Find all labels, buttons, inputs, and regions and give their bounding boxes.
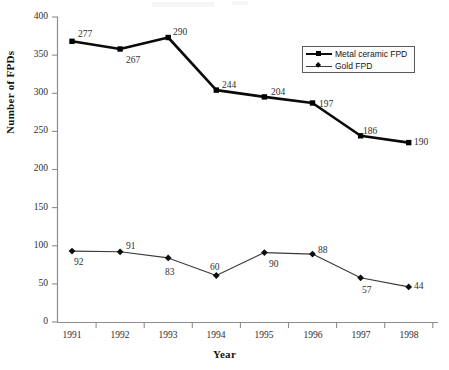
- data-label-metal-ceramic-1997: 186: [363, 126, 377, 136]
- chart-legend[interactable]: Metal ceramic FPD Gold FPD: [302, 46, 415, 73]
- data-label-gold-1998: 44: [414, 281, 424, 291]
- y-tick-label-400: 400: [14, 11, 48, 21]
- y-tick-label-150: 150: [14, 202, 48, 212]
- data-label-metal-ceramic-1991: 277: [78, 29, 92, 39]
- data-label-gold-1994: 60: [210, 262, 220, 272]
- y-tick-label-350: 350: [14, 49, 48, 59]
- x-tick-label-1993: 1993: [146, 330, 190, 340]
- legend-label-gold-fpd: Gold FPD: [335, 61, 372, 71]
- data-label-gold-1996: 88: [318, 245, 328, 255]
- x-tick-label-1995: 1995: [242, 330, 286, 340]
- data-label-gold-1993: 83: [165, 267, 175, 277]
- y-tick-label-250: 250: [14, 125, 48, 135]
- x-tick-label-1997: 1997: [339, 330, 383, 340]
- legend-item-metal-ceramic-fpd[interactable]: Metal ceramic FPD: [306, 48, 407, 60]
- y-tick-label-200: 200: [14, 163, 48, 173]
- y-tick-label-50: 50: [14, 278, 48, 288]
- data-label-gold-1992: 91: [126, 241, 136, 251]
- data-label-metal-ceramic-1996: 197: [319, 99, 333, 109]
- legend-item-gold-fpd[interactable]: Gold FPD: [306, 60, 372, 72]
- legend-sample-metal-ceramic-fpd: [306, 49, 332, 59]
- x-axis-title: Year: [0, 348, 449, 360]
- data-label-metal-ceramic-1998: 190: [414, 137, 428, 147]
- y-tick-label-100: 100: [14, 240, 48, 250]
- y-axis-title: Number of FPDs: [4, 120, 16, 134]
- y-tick-label-300: 300: [14, 87, 48, 97]
- data-label-metal-ceramic-1992: 267: [126, 55, 140, 65]
- data-label-metal-ceramic-1995: 204: [271, 87, 285, 97]
- series-line-gold-fpd: [72, 251, 409, 287]
- x-tick-label-1994: 1994: [194, 330, 238, 340]
- data-label-gold-1997: 57: [362, 285, 372, 295]
- data-label-metal-ceramic-1993: 290: [173, 27, 187, 37]
- data-label-metal-ceramic-1994: 244: [222, 80, 236, 90]
- data-label-gold-1995: 90: [269, 259, 279, 269]
- x-tick-label-1996: 1996: [291, 330, 335, 340]
- series-markers-gold-fpd: [69, 248, 412, 291]
- square-marker-icon: [316, 51, 321, 56]
- line-chart-figure: 400 350 300 250 200 150 100 50 0 1991 19…: [0, 0, 449, 370]
- x-tick-label-1992: 1992: [98, 330, 142, 340]
- legend-label-metal-ceramic-fpd: Metal ceramic FPD: [335, 49, 407, 59]
- y-tick-label-0: 0: [14, 316, 48, 326]
- x-tick-label-1991: 1991: [50, 330, 94, 340]
- data-label-gold-1991: 92: [74, 257, 84, 267]
- legend-sample-gold-fpd: [306, 61, 332, 71]
- diamond-marker-icon: [315, 62, 321, 68]
- x-tick-label-1998: 1998: [387, 330, 431, 340]
